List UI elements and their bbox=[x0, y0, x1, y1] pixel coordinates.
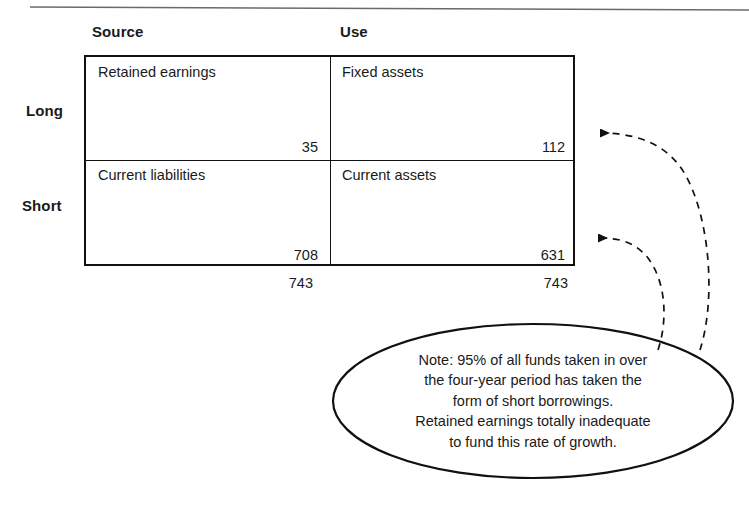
top-horizontal-rule bbox=[0, 0, 749, 20]
cell-label-current-assets: Current assets bbox=[342, 167, 565, 184]
note-line-4: Retained earnings totally inadequate bbox=[415, 411, 650, 432]
funds-matrix: Retained earnings 35 Fixed assets 112 Cu… bbox=[84, 55, 575, 266]
total-use: 743 bbox=[485, 275, 568, 291]
cell-value-fixed-assets: 112 bbox=[542, 139, 565, 155]
column-header-use: Use bbox=[340, 23, 368, 40]
cell-label-fixed-assets: Fixed assets bbox=[342, 64, 565, 81]
cell-long-source: Retained earnings 35 bbox=[86, 57, 330, 160]
cell-short-source: Current liabilities 708 bbox=[86, 160, 330, 268]
row-header-short: Short bbox=[22, 197, 62, 214]
column-header-source: Source bbox=[92, 23, 143, 40]
note-line-5: to fund this rate of growth. bbox=[449, 432, 617, 453]
note-line-2: the four-year period has taken the bbox=[424, 370, 642, 391]
connector-to-fixed-assets bbox=[600, 133, 709, 350]
cell-label-retained-earnings: Retained earnings bbox=[98, 64, 318, 81]
cell-short-use: Current assets 631 bbox=[330, 160, 577, 268]
total-source: 743 bbox=[230, 275, 313, 291]
note-callout: Note: 95% of all funds taken in over the… bbox=[331, 322, 735, 480]
note-callout-text: Note: 95% of all funds taken in over the… bbox=[331, 322, 735, 480]
cell-value-retained-earnings: 35 bbox=[302, 139, 318, 155]
cell-value-current-assets: 631 bbox=[541, 247, 565, 263]
cell-long-use: Fixed assets 112 bbox=[330, 57, 577, 160]
cell-value-current-liabilities: 708 bbox=[294, 247, 318, 263]
note-line-1: Note: 95% of all funds taken in over bbox=[419, 350, 648, 371]
figure-canvas: Source Use Long Short Retained earnings … bbox=[0, 0, 749, 526]
row-header-long: Long bbox=[26, 102, 63, 119]
note-line-3: form of short borrowings. bbox=[453, 391, 613, 412]
cell-label-current-liabilities: Current liabilities bbox=[98, 167, 318, 184]
